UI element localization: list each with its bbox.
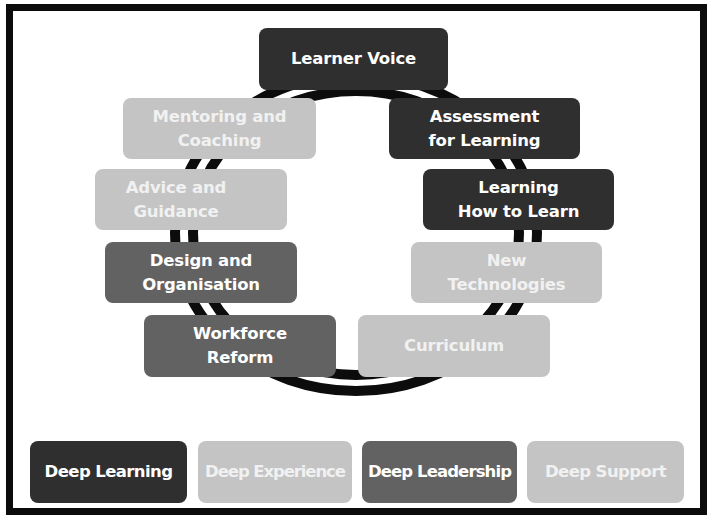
legend-deep-support: Deep Support [527,441,684,503]
legend-label: Deep Learning [45,460,173,484]
node-assessment-for-learning: Assessment for Learning [389,98,580,159]
node-label: Assessment for Learning [429,105,541,153]
node-curriculum: Curriculum [358,315,550,377]
legend-deep-experience: Deep Experience [198,441,352,503]
legend-deep-learning: Deep Learning [30,441,187,503]
legend-label: Deep Support [545,460,666,484]
legend-label: Deep Leadership [368,460,511,484]
node-label: Design and Organisation [142,249,260,297]
legend-deep-leadership: Deep Leadership [362,441,517,503]
node-label: Workforce Reform [193,322,287,370]
node-label: Mentoring and Coaching [153,105,287,153]
node-label: Learner Voice [291,47,416,71]
node-design-and-organisation: Design and Organisation [105,242,297,303]
node-label: Advice and Guidance [126,176,226,224]
node-new-technologies: New Technologies [411,242,602,303]
node-learner-voice: Learner Voice [259,28,448,90]
node-label: New Technologies [448,249,566,297]
node-label: Learning How to Learn [458,176,579,224]
node-advice-and-guidance: Advice and Guidance [95,169,287,230]
node-label: Curriculum [404,334,504,358]
node-workforce-reform: Workforce Reform [144,315,336,377]
node-learning-how-to-learn: Learning How to Learn [423,169,614,230]
node-mentoring-and-coaching: Mentoring and Coaching [123,98,316,159]
legend-label: Deep Experience [205,460,345,484]
